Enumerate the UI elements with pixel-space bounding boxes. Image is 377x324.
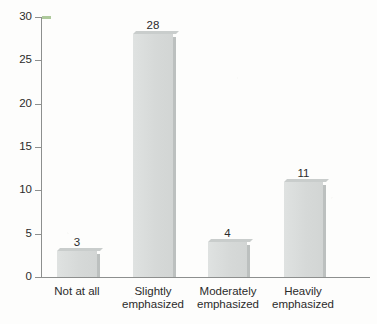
bar-slightly-emphasized bbox=[133, 34, 173, 277]
bar-not-at-all bbox=[57, 251, 97, 277]
y-tick-label-30: 30 bbox=[0, 11, 32, 23]
y-tick-0 bbox=[35, 277, 41, 278]
scan-artifact-mark bbox=[42, 16, 51, 19]
y-tick-label-25: 25 bbox=[0, 54, 32, 66]
y-tick-5 bbox=[35, 234, 41, 235]
y-tick-30 bbox=[35, 17, 41, 18]
y-tick-15 bbox=[35, 147, 41, 148]
y-tick-20 bbox=[35, 104, 41, 105]
y-tick-label-10: 10 bbox=[0, 184, 32, 196]
bar-chart: 0 5 10 15 20 25 30 3 28 4 11 Not at all … bbox=[0, 0, 377, 324]
y-axis-line bbox=[41, 17, 42, 278]
x-label-heavily-emphasized-line1: Heavily bbox=[263, 285, 343, 298]
x-label-not-at-all: Not at all bbox=[37, 285, 117, 298]
bar-moderately-emphasized bbox=[208, 242, 247, 277]
y-tick-label-0: 0 bbox=[0, 271, 32, 283]
y-tick-25 bbox=[35, 60, 41, 61]
x-label-heavily-emphasized-line2: emphasized bbox=[263, 298, 343, 311]
x-label-moderately-emphasized: Moderately emphasized bbox=[188, 285, 268, 311]
x-label-moderately-emphasized-line1: Moderately bbox=[188, 285, 268, 298]
x-label-moderately-emphasized-line2: emphasized bbox=[188, 298, 268, 311]
y-tick-label-5: 5 bbox=[0, 228, 32, 240]
x-label-heavily-emphasized: Heavily emphasized bbox=[263, 285, 343, 311]
bar-value-not-at-all: 3 bbox=[57, 237, 97, 249]
x-label-not-at-all-line1: Not at all bbox=[37, 285, 117, 298]
x-label-slightly-emphasized: Slightly emphasized bbox=[113, 285, 193, 311]
bar-heavily-emphasized bbox=[284, 182, 323, 277]
x-label-slightly-emphasized-line2: emphasized bbox=[113, 298, 193, 311]
y-tick-label-20: 20 bbox=[0, 98, 32, 110]
bar-value-slightly-emphasized: 28 bbox=[133, 20, 173, 32]
y-tick-10 bbox=[35, 190, 41, 191]
bar-value-moderately-emphasized: 4 bbox=[208, 228, 247, 240]
x-label-slightly-emphasized-line1: Slightly bbox=[113, 285, 193, 298]
x-axis-line bbox=[41, 277, 370, 278]
bar-value-heavily-emphasized: 11 bbox=[284, 168, 323, 180]
y-tick-label-15: 15 bbox=[0, 141, 32, 153]
